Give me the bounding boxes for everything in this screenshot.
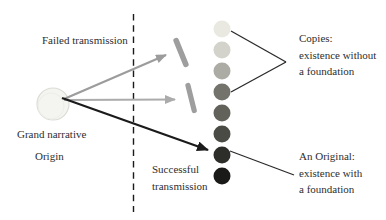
copy-circle-2 xyxy=(214,42,231,59)
blocked-transmission-arrow xyxy=(64,100,175,101)
failed-transmission-label: Failed transmission xyxy=(42,32,128,49)
origin-label: Origin xyxy=(35,148,64,165)
copies-label: Copies: existence without a foundation xyxy=(299,30,376,80)
successful-transmission-label: Successful transmission xyxy=(152,161,208,194)
original-pointer-line xyxy=(230,151,294,175)
copies-bracket-line-bottom xyxy=(231,62,286,92)
barrier-bar-top xyxy=(173,37,190,68)
copy-circle-1 xyxy=(214,21,231,38)
copy-circle-8 xyxy=(214,168,231,185)
copy-circle-6 xyxy=(214,126,231,143)
failed-transmission-arrow xyxy=(64,55,166,99)
copy-circle-3 xyxy=(214,63,231,80)
original-label: An Original: existence with a foundation xyxy=(299,148,362,198)
grand-narrative-label: Grand narrative xyxy=(17,126,86,143)
copy-circle-7 xyxy=(214,147,231,164)
copies-circles xyxy=(214,21,231,185)
copies-bracket-line-top xyxy=(231,31,286,62)
copy-circle-4 xyxy=(214,84,231,101)
barrier-bar-bottom xyxy=(185,82,198,113)
copy-circle-5 xyxy=(214,105,231,122)
diagram-canvas: Failed transmission Grand narrative Orig… xyxy=(0,0,386,220)
